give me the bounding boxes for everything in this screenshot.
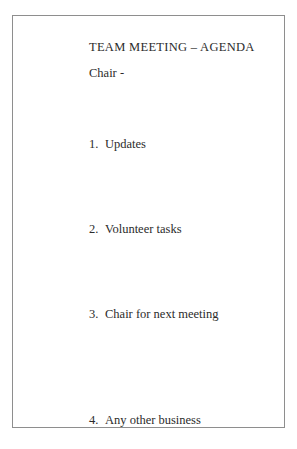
- agenda-item: 1.Updates: [89, 80, 270, 151]
- agenda-item-number: 4.: [89, 413, 105, 427]
- agenda-list: 1.Updates 2.Volunteer tasks 3.Chair for …: [89, 80, 270, 427]
- agenda-item: 3.Chair for next meeting: [89, 236, 270, 321]
- agenda-item-label: Volunteer tasks: [105, 222, 182, 236]
- agenda-item-label: Updates: [105, 137, 146, 151]
- page-canvas: TEAM MEETING – AGENDA Chair - 1.Updates …: [0, 0, 297, 449]
- agenda-item: 4.Any other business: [89, 321, 270, 427]
- agenda-item-label: Chair for next meeting: [105, 307, 219, 321]
- agenda-item-number: 1.: [89, 137, 105, 151]
- chair-label: Chair -: [89, 54, 270, 80]
- page-title: TEAM MEETING – AGENDA: [89, 40, 270, 54]
- document-page-frame: TEAM MEETING – AGENDA Chair - 1.Updates …: [12, 15, 285, 428]
- document-body: TEAM MEETING – AGENDA Chair - 1.Updates …: [89, 40, 270, 427]
- agenda-item-number: 2.: [89, 222, 105, 236]
- agenda-item-number: 3.: [89, 307, 105, 321]
- agenda-item: 2.Volunteer tasks: [89, 151, 270, 236]
- agenda-item-label: Any other business: [105, 413, 201, 427]
